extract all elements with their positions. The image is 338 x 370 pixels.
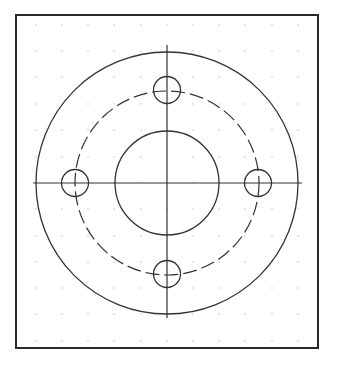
grid-dot [219,262,220,263]
grid-dot [36,157,37,158]
grid-dot [219,314,220,315]
grid-dot [272,25,273,26]
grid-dot [245,314,246,315]
grid-dot [219,25,220,26]
grid-dot [114,314,115,315]
grid-dot [88,157,89,158]
grid-dot [88,236,89,237]
grid-dot [298,341,299,342]
grid-dot [36,236,37,237]
grid-dot [298,77,299,78]
grid-dot [245,157,246,158]
grid-dot [193,130,194,131]
grid-dot [219,341,220,342]
grid-dot [193,77,194,78]
grid-dot [62,157,63,158]
grid-dot [298,209,299,210]
grid-dot [298,314,299,315]
grid-dot [298,288,299,289]
grid-dot [141,209,142,210]
grid-dot [36,288,37,289]
grid-dot [36,341,37,342]
grid-dot [114,25,115,26]
grid-dot [141,25,142,26]
grid-dot [36,314,37,315]
grid-dot [193,25,194,26]
grid-dot [141,77,142,78]
grid-dot [245,25,246,26]
grid-dot [141,314,142,315]
grid-dot [141,130,142,131]
grid-dot [193,341,194,342]
grid-dot [36,104,37,105]
grid-dot [114,77,115,78]
grid-dot [141,262,142,263]
grid-dot [62,341,63,342]
grid-dot [141,51,142,52]
grid-dot [88,314,89,315]
grid-dot [88,130,89,131]
grid-dot [114,104,115,105]
grid-dot [298,130,299,131]
grid-dot [114,288,115,289]
grid-dot [114,341,115,342]
grid-dot [88,104,89,105]
grid-dot [272,130,273,131]
grid-dot [272,288,273,289]
grid-dot [114,236,115,237]
grid-dot [36,262,37,263]
grid-dot [141,341,142,342]
grid-dot [141,288,142,289]
grid-dot [62,314,63,315]
drawing-canvas [0,0,338,370]
grid-dot [62,130,63,131]
grid-dot [219,209,220,210]
grid-dot [62,288,63,289]
grid-dot [272,236,273,237]
grid-dot [219,77,220,78]
grid-dot [114,130,115,131]
grid-dot [298,262,299,263]
grid-dot [245,236,246,237]
grid-dot [36,25,37,26]
grid-dot [88,209,89,210]
grid-dot [88,77,89,78]
grid-dot [298,25,299,26]
grid-dot [62,51,63,52]
grid-dot [219,236,220,237]
grid-dot [272,157,273,158]
grid-dot [36,51,37,52]
grid-dot [193,262,194,263]
grid-dot [298,51,299,52]
grid-dot [114,157,115,158]
grid-dot [245,341,246,342]
grid-dot [36,77,37,78]
grid-dot [114,51,115,52]
grid-dot [245,209,246,210]
grid-dot [62,25,63,26]
grid-dot [141,104,142,105]
grid-dot [62,77,63,78]
grid-dot [193,288,194,289]
grid-dot [219,157,220,158]
grid-dot [36,209,37,210]
grid-dot [245,130,246,131]
grid-dot [88,25,89,26]
grid-dot [88,51,89,52]
grid-dot [219,104,220,105]
grid-dot [272,51,273,52]
grid-dot [245,262,246,263]
grid-dot [114,262,115,263]
grid-dot [193,51,194,52]
grid-dot [193,104,194,105]
grid-dot [272,314,273,315]
grid-dot [272,77,273,78]
grid-dot [141,236,142,237]
grid-dot [219,130,220,131]
grid-dot [219,51,220,52]
grid-dot [62,209,63,210]
grid-dot [245,51,246,52]
grid-dot [298,104,299,105]
grid-dot [298,236,299,237]
grid-dot [272,341,273,342]
